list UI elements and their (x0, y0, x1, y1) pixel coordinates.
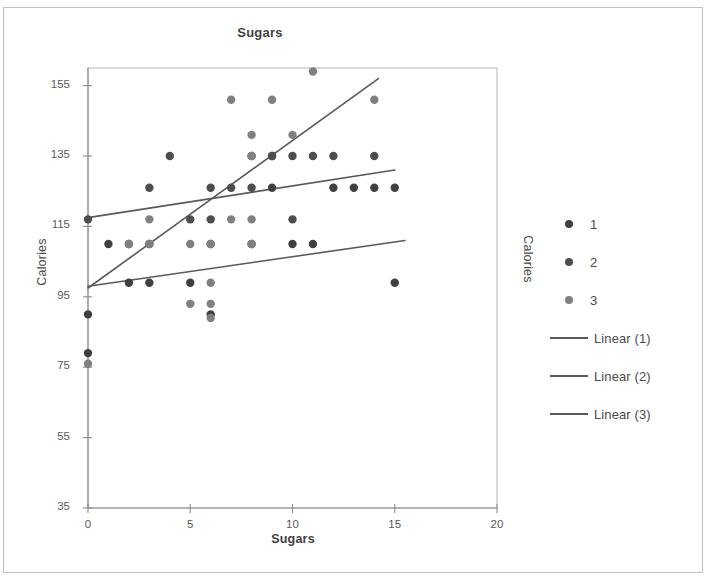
legend-marker-dot-icon (565, 258, 573, 266)
y-tick-label: 35 (30, 500, 70, 512)
legend-item-label: 3 (590, 293, 597, 308)
legend-item-label: 2 (590, 255, 597, 270)
y-tick-label: 155 (30, 78, 70, 90)
x-tick-label: 10 (278, 518, 308, 530)
chart-legend: 123Linear (1)Linear (2)Linear (3) (548, 205, 698, 433)
legend-item-label: Linear (1) (594, 331, 651, 346)
y-tick-label: 75 (30, 359, 70, 371)
legend-item[interactable]: 2 (548, 243, 698, 281)
legend-marker-line-icon (550, 375, 588, 377)
x-axis-title: Sugars (88, 532, 498, 546)
chart-container: Sugars 15513511595755535 05101520 Calori… (0, 0, 709, 587)
trendlines-group (88, 79, 405, 288)
legend-item[interactable]: 1 (548, 205, 698, 243)
legend-marker-dot-icon (565, 220, 573, 228)
y-tick-label: 55 (30, 430, 70, 442)
legend-item[interactable]: Linear (1) (548, 319, 698, 357)
legend-item[interactable]: Linear (3) (548, 395, 698, 433)
legend-item[interactable]: 3 (548, 281, 698, 319)
legend-item-label: Linear (3) (594, 407, 651, 422)
axis-ticks (83, 86, 497, 513)
y-axis-title-left: Calories (35, 212, 49, 312)
x-tick-label: 5 (175, 518, 205, 530)
legend-marker-dot-icon (565, 296, 573, 304)
x-tick-label: 0 (73, 518, 103, 530)
legend-item-label: 1 (590, 217, 597, 232)
y-axis-title-right: Calories (521, 209, 535, 309)
data-points-group (84, 67, 399, 368)
legend-item[interactable]: Linear (2) (548, 357, 698, 395)
x-tick-label: 15 (380, 518, 410, 530)
legend-marker-line-icon (550, 337, 588, 339)
legend-item-label: Linear (2) (594, 369, 651, 384)
y-tick-label: 135 (30, 148, 70, 160)
x-tick-label: 20 (482, 518, 512, 530)
legend-marker-line-icon (550, 413, 588, 415)
